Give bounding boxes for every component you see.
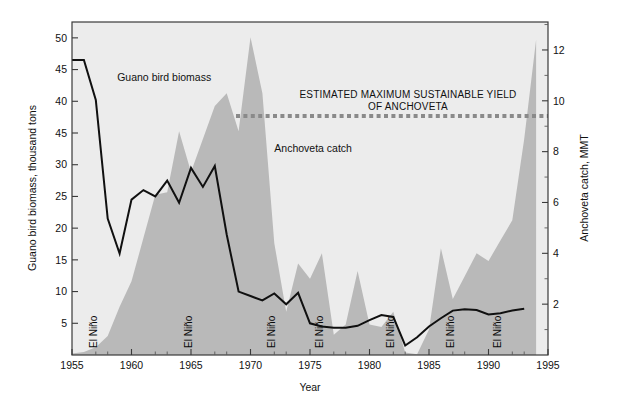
left-tick-label: 25 — [55, 190, 67, 202]
msy-label-line1: ESTIMATED MAXIMUM SUSTAINABLE YIELD — [299, 89, 516, 100]
el-nino-marker: El Niño — [183, 315, 194, 348]
anchoveta-catch-label: Anchoveta catch — [274, 142, 352, 154]
el-nino-label: El Niño — [314, 315, 325, 348]
x-tick-label: 1990 — [477, 359, 501, 371]
left-tick-label: 30 — [55, 158, 67, 170]
left-tick-label: 45 — [55, 63, 67, 75]
left-axis-title: Guano bird biomass, thousand tons — [26, 105, 38, 271]
x-tick-label: 1970 — [239, 359, 263, 371]
el-nino-label: El Niño — [266, 315, 277, 348]
el-nino-marker: El Niño — [314, 315, 325, 348]
x-tick-label: 1960 — [120, 359, 144, 371]
x-tick-label: 1995 — [536, 359, 560, 371]
guano-bird-biomass-label: Guano bird biomass — [117, 71, 211, 83]
el-nino-marker: El Niño — [445, 315, 456, 348]
left-tick-label: 15 — [55, 254, 67, 266]
right-tick-label: 10 — [553, 95, 565, 107]
left-tick-label: 45 — [55, 127, 67, 139]
x-tick-label: 1980 — [358, 359, 382, 371]
x-tick-label: 1975 — [298, 359, 322, 371]
chart-figure: El NiñoEl NiñoEl NiñoEl NiñoEl NiñoEl Ni… — [0, 0, 617, 399]
left-tick-label: 10 — [55, 285, 67, 297]
x-tick-label: 1955 — [60, 359, 84, 371]
x-tick-label: 1985 — [417, 359, 441, 371]
anchoveta-guano-chart-svg: El NiñoEl NiñoEl NiñoEl NiñoEl NiñoEl Ni… — [0, 0, 617, 399]
right-tick-label: 6 — [553, 196, 559, 208]
el-nino-marker: El Niño — [492, 315, 503, 348]
left-tick-label: 50 — [55, 32, 67, 44]
msy-label-line2: OF ANCHOVETA — [368, 101, 448, 112]
left-tick-label: 5 — [61, 317, 67, 329]
right-tick-label: 12 — [553, 44, 565, 56]
el-nino-marker: El Niño — [88, 315, 99, 348]
right-tick-label: 2 — [553, 298, 559, 310]
left-tick-label: 40 — [55, 95, 67, 107]
el-nino-label: El Niño — [445, 315, 456, 348]
el-nino-marker: El Niño — [266, 315, 277, 348]
right-tick-label: 8 — [553, 145, 559, 157]
x-axis-title: Year — [299, 381, 321, 393]
el-nino-label: El Niño — [183, 315, 194, 348]
el-nino-label: El Niño — [88, 315, 99, 348]
x-tick-label: 1965 — [179, 359, 203, 371]
right-tick-label: 4 — [553, 247, 559, 259]
el-nino-label: El Niño — [492, 315, 503, 348]
left-tick-label: 20 — [55, 222, 67, 234]
right-axis-title: Anchoveta catch, MMT — [578, 134, 590, 242]
